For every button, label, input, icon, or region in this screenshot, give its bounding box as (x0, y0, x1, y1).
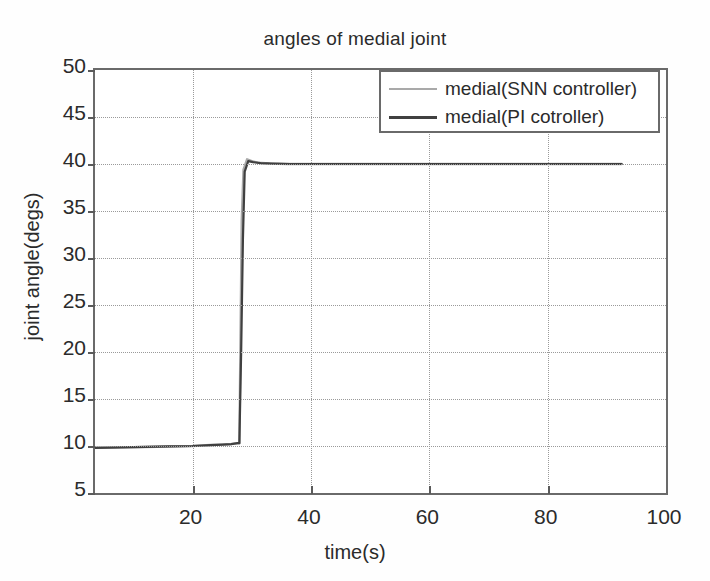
plot-canvas (95, 70, 666, 493)
y-tick-mark (88, 305, 95, 307)
x-tick-mark (311, 486, 313, 494)
x-tick-mark (429, 486, 431, 494)
x-tick-label: 100 (629, 505, 699, 529)
legend-swatch-snn (389, 88, 437, 90)
x-tick-label: 20 (156, 505, 226, 529)
x-tick-mark (193, 486, 195, 494)
y-tick-mark (88, 211, 95, 213)
x-tick-label: 40 (274, 505, 344, 529)
x-tick-label: 60 (392, 505, 462, 529)
x-axis-label: time(s) (0, 541, 710, 564)
y-tick-mark (88, 446, 95, 448)
y-tick-label: 10 (32, 430, 86, 454)
x-tick-mark (548, 486, 550, 494)
y-tick-mark (88, 70, 95, 72)
legend-box: medial(SNN controller) medial(PI cotroll… (379, 70, 660, 133)
legend-item[interactable]: medial(PI cotroller) (381, 103, 658, 131)
legend-label-pi: medial(PI cotroller) (445, 106, 604, 128)
chart-title: angles of medial joint (0, 28, 710, 50)
y-tick-mark (88, 258, 95, 260)
y-tick-label: 5 (32, 477, 86, 501)
y-tick-mark (88, 493, 95, 495)
y-tick-label: 50 (32, 54, 86, 78)
legend-swatch-pi (389, 116, 437, 119)
chart-figure: angles of medial joint 50454035302520151… (0, 0, 710, 581)
y-tick-mark (88, 399, 95, 401)
y-tick-mark (88, 117, 95, 119)
series-line (95, 161, 622, 448)
y-axis-label: joint angle(degs) (21, 117, 44, 417)
series-line (95, 159, 622, 448)
y-tick-mark (88, 352, 95, 354)
x-tick-label: 80 (511, 505, 581, 529)
y-tick-mark (88, 164, 95, 166)
legend-item[interactable]: medial(SNN controller) (381, 75, 658, 103)
legend-label-snn: medial(SNN controller) (445, 78, 637, 100)
